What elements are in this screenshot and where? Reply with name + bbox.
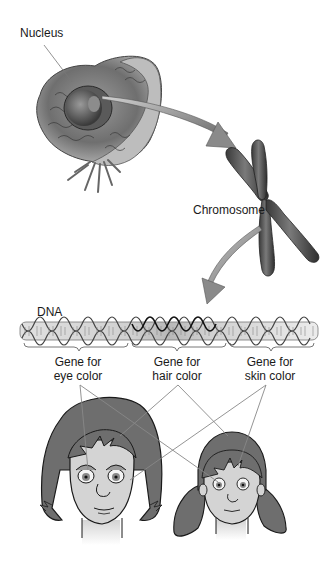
dna-strand xyxy=(20,317,318,345)
gene-skin-color-line2: skin color xyxy=(230,369,310,383)
gene-eye-color-label: Gene for eye color xyxy=(38,355,118,383)
gene-eye-color-line1: Gene for xyxy=(38,355,118,369)
gene-braces xyxy=(24,343,314,351)
diagram-graphics xyxy=(0,0,336,568)
gene-skin-color-line1: Gene for xyxy=(230,355,310,369)
gene-skin-color-label: Gene for skin color xyxy=(230,355,310,383)
cell-illustration xyxy=(37,56,162,192)
girl-face xyxy=(174,432,286,540)
gene-hair-color-line1: Gene for xyxy=(137,355,217,369)
gene-hair-color-label: Gene for hair color xyxy=(137,355,217,383)
adult-woman-face xyxy=(40,397,162,545)
chromosome-label: Chromosome xyxy=(193,203,265,217)
arrow-chromosome-to-dna-icon xyxy=(202,226,262,304)
gene-eye-color-line2: eye color xyxy=(38,369,118,383)
dna-label: DNA xyxy=(37,305,62,319)
gene-hair-color-line2: hair color xyxy=(137,369,217,383)
diagram-stage: Nucleus Chromosome DNA Gene for eye colo… xyxy=(0,0,336,568)
nucleus-label: Nucleus xyxy=(20,26,63,40)
